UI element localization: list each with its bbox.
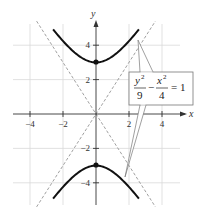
- y-tick-label: 2: [86, 75, 91, 85]
- x-axis-arrow-icon: [180, 112, 187, 117]
- y-axis-label: y: [90, 8, 96, 19]
- eq-den1: 9: [137, 89, 143, 101]
- eq-num2: x: [156, 74, 162, 86]
- eq-num1: y: [134, 74, 140, 86]
- x-tick-label: −4: [25, 119, 35, 129]
- x-tick-label: 2: [127, 119, 132, 129]
- y-axis-arrow-icon: [94, 20, 99, 27]
- eq-equals: = 1: [171, 81, 185, 93]
- eq-exp1: 2: [141, 73, 145, 81]
- vertex-upper-point: [93, 59, 98, 64]
- hyperbola-graph: −4−22442−2−4 x y y 2 9 − x 2 4 = 1: [0, 0, 202, 212]
- vertex-lower-point: [93, 162, 98, 167]
- x-tick-label: −2: [58, 119, 68, 129]
- eq-den2: 4: [159, 89, 165, 101]
- x-axis-label: x: [188, 108, 194, 119]
- axes: [13, 24, 185, 205]
- y-tick-label: −4: [80, 178, 90, 188]
- y-tick-label: 4: [86, 40, 91, 50]
- x-tick-label: 4: [160, 119, 165, 129]
- callout-pointer-down: [125, 105, 146, 177]
- y-tick-label: −2: [80, 143, 90, 153]
- eq-exp2: 2: [163, 73, 167, 81]
- eq-minus: −: [148, 81, 154, 93]
